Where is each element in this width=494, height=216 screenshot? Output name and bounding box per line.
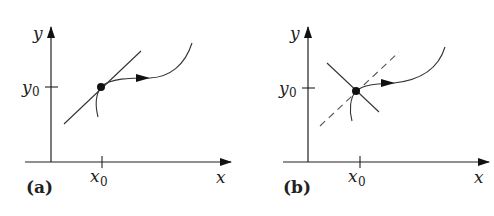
equilibrium-point (97, 83, 105, 91)
y-axis-label: y (32, 23, 43, 43)
direction-arrow-icon (136, 74, 150, 82)
x0-label: x (90, 166, 100, 186)
figure: y x y 0 x 0 (a) y x y 0 x 0 (0, 0, 494, 216)
x-axis-label: x (474, 167, 484, 187)
equilibrium-point (352, 87, 360, 95)
y0-label: y (278, 78, 289, 98)
y0-sub: 0 (32, 85, 40, 99)
x-axis-label: x (216, 167, 226, 187)
panel-b: y x y 0 x 0 (b) (278, 23, 489, 197)
x0-label: x (348, 166, 358, 186)
y0-sub: 0 (289, 86, 297, 100)
y0-label: y (21, 77, 32, 97)
y-axis-label: y (289, 23, 300, 43)
panel-label: (b) (283, 177, 311, 197)
x0-sub: 0 (100, 175, 108, 189)
direction-arrow-icon (381, 79, 395, 87)
crossing-line (327, 63, 379, 112)
panel-a: y x y 0 x 0 (a) (21, 23, 231, 197)
x0-sub: 0 (358, 175, 366, 189)
panel-label: (a) (26, 177, 53, 197)
